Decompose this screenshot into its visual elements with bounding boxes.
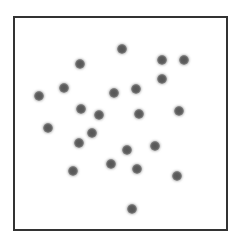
- scatter-point: [127, 204, 137, 214]
- scatter-point: [43, 123, 53, 133]
- scatter-point: [68, 166, 78, 176]
- scatter-point: [134, 109, 144, 119]
- scatter-point: [87, 128, 97, 138]
- scatter-point: [76, 104, 86, 114]
- scatter-point: [132, 164, 142, 174]
- scatter-point: [172, 171, 182, 181]
- scatter-point: [157, 74, 167, 84]
- scatter-point: [179, 55, 189, 65]
- scatter-point: [109, 88, 119, 98]
- scatter-figure: [0, 0, 239, 243]
- scatter-point: [75, 59, 85, 69]
- scatter-point: [174, 106, 184, 116]
- scatter-point: [131, 84, 141, 94]
- scatter-point: [157, 55, 167, 65]
- scatter-point: [74, 138, 84, 148]
- scatter-point: [59, 83, 69, 93]
- scatter-point: [34, 91, 44, 101]
- scatter-point: [150, 141, 160, 151]
- scatter-point: [122, 145, 132, 155]
- scatter-point: [94, 110, 104, 120]
- scatter-point: [106, 159, 116, 169]
- scatter-point: [117, 44, 127, 54]
